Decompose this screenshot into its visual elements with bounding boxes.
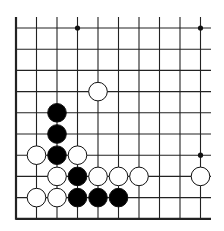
black-stone[interactable] <box>48 146 67 165</box>
white-stone[interactable] <box>27 146 46 165</box>
black-stone[interactable] <box>48 104 67 123</box>
white-stone[interactable] <box>89 167 108 186</box>
white-stone[interactable] <box>89 82 108 101</box>
go-board[interactable] <box>0 0 224 231</box>
black-stone[interactable] <box>109 188 128 207</box>
star-point-icon <box>198 153 203 158</box>
black-stone[interactable] <box>48 125 67 144</box>
white-stone[interactable] <box>130 167 149 186</box>
white-stone[interactable] <box>68 146 87 165</box>
black-stone[interactable] <box>89 188 108 207</box>
white-stone[interactable] <box>191 167 210 186</box>
white-stone[interactable] <box>48 188 67 207</box>
star-point-icon <box>75 25 80 30</box>
star-point-icon <box>198 25 203 30</box>
black-stone[interactable] <box>68 167 87 186</box>
white-stone[interactable] <box>109 167 128 186</box>
white-stone[interactable] <box>48 167 67 186</box>
black-stone[interactable] <box>68 188 87 207</box>
white-stone[interactable] <box>27 188 46 207</box>
